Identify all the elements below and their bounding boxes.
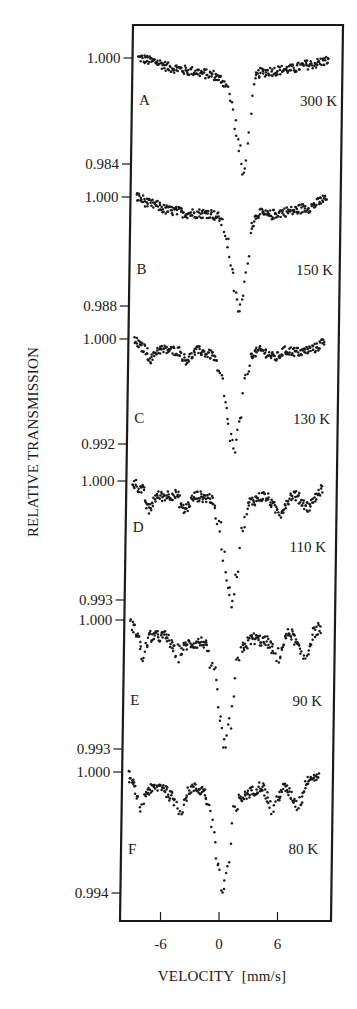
data-point <box>273 804 276 807</box>
data-point <box>298 796 301 799</box>
data-point <box>278 661 281 664</box>
data-point <box>177 491 180 494</box>
data-point <box>244 643 247 646</box>
data-point <box>144 642 147 645</box>
data-point <box>198 345 201 348</box>
data-point <box>317 776 320 779</box>
data-point <box>267 644 270 647</box>
data-point <box>298 643 301 646</box>
data-point <box>267 492 270 495</box>
data-point <box>316 773 319 776</box>
data-point <box>159 498 162 501</box>
data-point <box>234 677 237 680</box>
spectrum-b: B150 K <box>136 192 334 313</box>
data-point <box>251 638 254 641</box>
data-point <box>244 271 247 274</box>
data-point <box>315 625 318 628</box>
data-point <box>197 638 200 641</box>
data-point <box>315 778 318 781</box>
data-point <box>266 791 269 794</box>
temperature-label: 300 K <box>300 93 337 109</box>
data-point <box>139 648 142 651</box>
data-point <box>194 783 197 786</box>
data-point <box>322 200 325 203</box>
data-point <box>156 200 159 203</box>
data-point <box>199 490 202 493</box>
data-point <box>300 354 303 357</box>
data-point <box>230 727 233 730</box>
data-point <box>184 511 187 514</box>
data-point <box>211 351 214 354</box>
data-point <box>132 621 135 624</box>
data-point <box>325 198 328 201</box>
data-point <box>208 667 211 670</box>
data-point <box>143 489 146 492</box>
data-point <box>241 392 244 395</box>
data-point <box>317 489 320 492</box>
data-point <box>286 784 289 787</box>
data-point <box>175 491 178 494</box>
temperature-label: 80 K <box>288 841 318 857</box>
data-point <box>151 790 154 793</box>
data-point <box>164 499 167 502</box>
data-point <box>301 211 304 214</box>
data-point <box>192 499 195 502</box>
data-point <box>228 93 231 96</box>
data-point <box>135 485 138 488</box>
data-point <box>227 723 230 726</box>
data-point <box>286 66 289 69</box>
data-point <box>287 500 290 503</box>
y-tick-label: 1.000 <box>79 612 113 628</box>
data-point <box>252 225 255 228</box>
data-point <box>287 794 290 797</box>
data-point <box>156 789 159 792</box>
data-point <box>133 781 136 784</box>
data-point <box>214 666 217 669</box>
data-point <box>185 503 188 506</box>
data-point <box>128 770 131 773</box>
data-point <box>319 625 322 628</box>
data-point <box>260 641 263 644</box>
data-point <box>240 416 243 419</box>
data-point <box>221 374 224 377</box>
data-point <box>250 112 253 115</box>
data-point <box>279 69 282 72</box>
data-point <box>206 494 209 497</box>
data-point <box>150 204 153 207</box>
data-point <box>297 494 300 497</box>
data-point <box>186 510 189 513</box>
data-point <box>164 630 167 633</box>
data-point <box>304 207 307 210</box>
data-point <box>243 171 246 174</box>
data-point <box>204 77 207 80</box>
data-point <box>133 487 136 490</box>
data-point <box>255 788 258 791</box>
data-point <box>264 352 267 355</box>
data-point <box>244 790 247 793</box>
data-point <box>228 594 231 597</box>
data-point <box>275 213 278 216</box>
data-point <box>240 646 243 649</box>
data-point <box>228 861 231 864</box>
data-point <box>307 350 310 353</box>
data-point <box>243 798 246 801</box>
data-point <box>244 374 247 377</box>
data-point <box>182 211 185 214</box>
data-point <box>186 786 189 789</box>
data-point <box>138 192 141 195</box>
data-point <box>186 217 189 220</box>
data-point <box>225 734 228 737</box>
data-point <box>133 336 136 339</box>
data-point <box>281 649 284 652</box>
data-point <box>146 205 149 208</box>
data-point <box>146 56 149 59</box>
data-point <box>283 644 286 647</box>
data-point <box>302 65 305 68</box>
data-point <box>167 634 170 637</box>
data-point <box>217 215 220 218</box>
temperature-label: 90 K <box>292 693 322 709</box>
data-point <box>320 487 323 490</box>
data-point <box>284 215 287 218</box>
data-point <box>247 262 250 265</box>
data-point <box>159 201 162 204</box>
